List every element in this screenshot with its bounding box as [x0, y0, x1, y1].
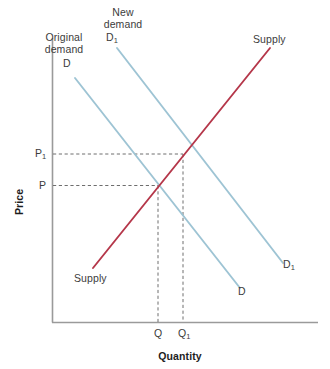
new-demand-end-label-sub: 1: [291, 263, 295, 272]
quantity-lower-tick-base: Q: [154, 327, 162, 339]
price-lower-tick-label: P: [39, 179, 46, 191]
quantity-lower-tick-label: Q: [154, 327, 162, 339]
new-demand-label: New demand: [95, 6, 151, 30]
demand-end-label-base: D: [238, 285, 246, 297]
supply-bottom-label: Supply: [74, 272, 107, 284]
demand-end-label: D: [238, 285, 246, 297]
quantity-upper-tick-sub: 1: [186, 332, 190, 341]
original-demand-label-line2: demand: [45, 43, 84, 55]
price-upper-tick-label: P1: [35, 147, 46, 161]
new-demand-curve-label-sub: 1: [114, 36, 118, 45]
x-axis-title: Quantity: [140, 350, 220, 362]
original-demand-curve-label-base: D: [63, 57, 71, 69]
new-demand-curve-label-base: D: [106, 31, 114, 43]
supply-curve: [93, 48, 270, 268]
supply-demand-chart: New demand D1 Original demand D Supply S…: [0, 0, 330, 369]
original-demand-label: Original demand: [33, 31, 95, 55]
price-lower-tick-base: P: [39, 179, 46, 191]
new-demand-label-line1: New: [112, 6, 133, 18]
chart-canvas: [0, 0, 330, 369]
original-demand-label-line1: Original: [46, 31, 83, 43]
new-demand-label-line2: demand: [104, 18, 143, 30]
new-demand-curve-label: D1: [106, 31, 118, 45]
new-demand-end-label: D1: [283, 258, 295, 272]
supply-top-label: Supply: [253, 33, 286, 45]
original-demand-curve-label: D: [63, 57, 71, 69]
y-axis-title: Price: [13, 177, 25, 227]
new-demand-end-label-base: D: [283, 258, 291, 270]
demand-curve-new: [117, 48, 283, 263]
quantity-upper-tick-label: Q1: [178, 327, 191, 341]
price-upper-tick-sub: 1: [42, 152, 46, 161]
